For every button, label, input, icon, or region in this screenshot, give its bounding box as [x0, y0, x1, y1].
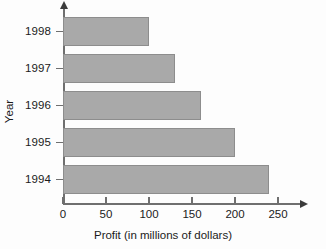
y-axis-title: Year [3, 82, 16, 142]
y-tick-1994 [56, 179, 63, 181]
y-tick-label-1994: 1994 [0, 173, 51, 185]
y-tick-1996 [56, 105, 63, 107]
x-tick-100 [148, 197, 150, 204]
bar-1996 [63, 91, 201, 120]
bar-1998 [63, 17, 149, 46]
x-axis-arrow-icon [300, 200, 308, 208]
y-tick-label-1998: 1998 [0, 25, 51, 37]
x-tick-250 [277, 197, 279, 204]
x-tick-200 [234, 197, 236, 204]
bar-1995 [63, 128, 235, 157]
bar-chart: 19981997199619951994 050100150200250 Yea… [0, 0, 326, 249]
y-tick-1997 [56, 68, 63, 70]
x-tick-0 [62, 197, 64, 204]
y-tick-1995 [56, 142, 63, 144]
x-tick-label-250: 250 [258, 208, 298, 221]
x-tick-50 [105, 197, 107, 204]
y-axis-arrow-icon [60, 1, 68, 9]
x-tick-label-200: 200 [215, 208, 255, 221]
y-tick-1998 [56, 31, 63, 33]
x-tick-label-50: 50 [86, 208, 126, 221]
x-tick-label-100: 100 [129, 208, 169, 221]
x-tick-150 [191, 197, 193, 204]
y-tick-label-1997: 1997 [0, 62, 51, 74]
bar-1997 [63, 54, 175, 83]
x-tick-label-0: 0 [43, 208, 83, 221]
bar-1994 [63, 165, 269, 194]
x-tick-label-150: 150 [172, 208, 212, 221]
x-axis-line [63, 203, 305, 205]
x-axis-title: Profit (in millions of dollars) [0, 228, 326, 242]
